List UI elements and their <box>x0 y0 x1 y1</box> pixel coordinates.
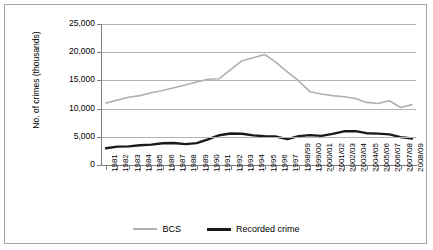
x-axis-tick-label: 1983 <box>133 154 142 172</box>
x-axis-tick-label: 1996 <box>280 154 289 172</box>
legend-label-bcs: BCS <box>162 224 181 234</box>
legend-entry-recorded-crime[interactable]: Recorded crime <box>207 224 300 234</box>
y-axis-tick-label: 5,000 <box>49 132 95 141</box>
x-axis-tick-label: 2006/07 <box>393 143 402 172</box>
y-axis-labels: 05,00010,00015,00020,00025,000 <box>43 5 95 245</box>
x-axis-tick-label: 1993 <box>246 154 255 172</box>
x-axis-tick-label: 1998/99 <box>303 143 312 172</box>
x-axis-tick-label: 1991 <box>223 154 232 172</box>
gridline <box>102 109 416 110</box>
legend-label-recorded-crime: Recorded crime <box>236 224 300 234</box>
x-axis-tick-label: 1994 <box>257 154 266 172</box>
legend-entry-bcs[interactable]: BCS <box>133 224 181 234</box>
gridline <box>102 80 416 81</box>
x-axis-tick-label: 2005/06 <box>382 143 391 172</box>
series-lines <box>102 24 416 165</box>
gridline <box>102 24 416 25</box>
gridline <box>102 52 416 53</box>
chart-legend: BCS Recorded crime <box>5 220 428 238</box>
gridline <box>102 137 416 138</box>
y-axis-tick-mark <box>97 109 101 110</box>
x-axis-tick-label: 1990 <box>212 154 221 172</box>
y-axis-line <box>101 24 102 166</box>
y-axis-tick-label: 10,000 <box>49 104 95 113</box>
x-axis-tick-label: 1999/00 <box>314 143 323 172</box>
y-axis-tick-mark <box>97 165 101 166</box>
x-axis-tick-mark <box>106 166 107 170</box>
x-axis-tick-label: 2007/08 <box>405 143 414 172</box>
x-axis-tick-label: 2001/02 <box>337 143 346 172</box>
y-axis-tick-label: 15,000 <box>49 75 95 84</box>
y-axis-tick-mark <box>97 137 101 138</box>
x-axis-tick-label: 2004/05 <box>371 143 380 172</box>
y-axis-tick-label: 0 <box>49 160 95 169</box>
x-axis-tick-label: 1987 <box>178 154 187 172</box>
plot-area <box>102 24 416 165</box>
chart-container: No. of crimes (thousands) 05,00010,00015… <box>4 4 427 244</box>
y-axis-tick-mark <box>97 52 101 53</box>
x-axis-tick-label: 1997 <box>291 154 300 172</box>
y-axis-tick-mark <box>97 80 101 81</box>
x-axis-tick-label: 1986 <box>167 154 176 172</box>
x-axis-tick-label: 1984 <box>144 154 153 172</box>
legend-swatch-bcs-icon <box>133 228 157 230</box>
x-axis-tick-label: 2002/03 <box>348 143 357 172</box>
x-axis-tick-label: 1992 <box>235 154 244 172</box>
x-axis-tick-label: 1985 <box>155 154 164 172</box>
y-axis-title: No. of crimes (thousands) <box>29 5 43 155</box>
x-axis-tick-label: 1982 <box>121 154 130 172</box>
legend-swatch-recorded-crime-icon <box>207 228 231 231</box>
x-axis-tick-label: 2003/04 <box>359 143 368 172</box>
x-axis-tick-label: 1989 <box>201 154 210 172</box>
x-axis-tick-label: 2000/01 <box>325 143 334 172</box>
x-axis-tick-label: 1981 <box>110 154 119 172</box>
x-axis-tick-label: 1988 <box>189 154 198 172</box>
x-axis-tick-label: 2008/09 <box>416 143 425 172</box>
chart-plot-wrapper: No. of crimes (thousands) 05,00010,00015… <box>5 5 428 245</box>
y-axis-tick-label: 20,000 <box>49 47 95 56</box>
y-axis-tick-mark <box>97 24 101 25</box>
y-axis-tick-label: 25,000 <box>49 19 95 28</box>
x-axis-tick-label: 1995 <box>269 154 278 172</box>
